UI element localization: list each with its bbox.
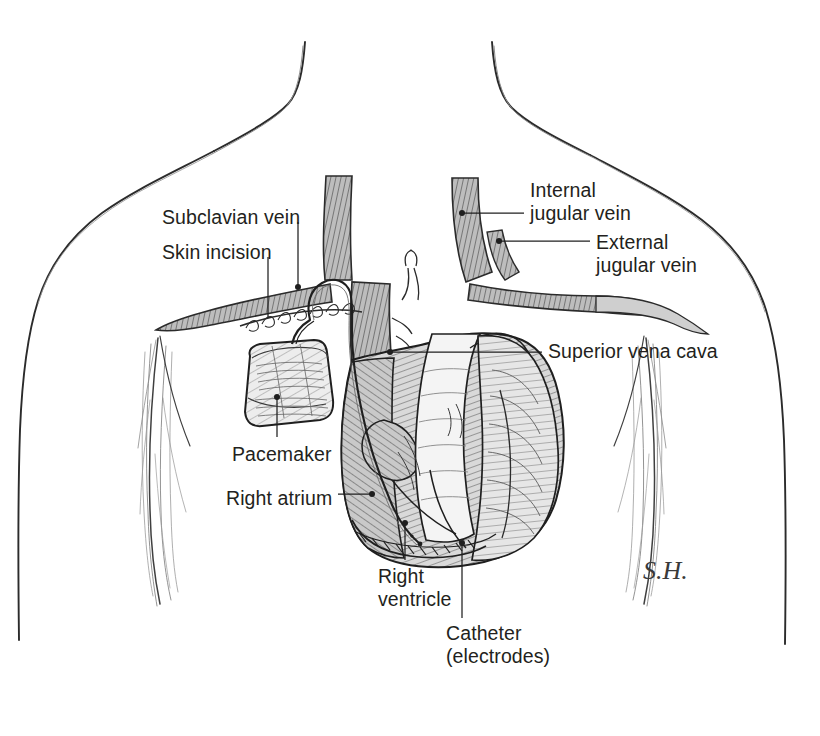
dot-right-ventricle bbox=[402, 520, 408, 526]
vessel-jugular-left-internal bbox=[323, 176, 352, 280]
dot-catheter bbox=[459, 540, 465, 546]
dot-right-atrium bbox=[369, 491, 375, 497]
label-superior-vena-cava: Superior vena cava bbox=[548, 340, 718, 363]
label-pacemaker: Pacemaker bbox=[232, 443, 332, 466]
label-subclavian-vein: Subclavian vein bbox=[162, 206, 300, 229]
label-right-ventricle: Right ventricle bbox=[378, 565, 452, 611]
artist-signature: S.H. bbox=[643, 556, 688, 586]
dot-internal-jugular bbox=[459, 210, 465, 216]
dot-subclavian-vein bbox=[295, 284, 301, 290]
pacemaker-illustration bbox=[0, 0, 820, 736]
pulse-generator-body bbox=[245, 340, 333, 426]
label-external-jugular-vein: External jugular vein bbox=[596, 231, 697, 277]
heart bbox=[341, 333, 563, 567]
label-catheter-electrodes: Catheter (electrodes) bbox=[446, 622, 550, 668]
label-right-atrium: Right atrium bbox=[226, 487, 332, 510]
dot-pacemaker bbox=[274, 394, 280, 400]
label-skin-incision: Skin incision bbox=[162, 241, 272, 264]
label-internal-jugular-vein: Internal jugular vein bbox=[530, 179, 631, 225]
dot-superior-vena-cava bbox=[387, 349, 393, 355]
dot-external-jugular bbox=[496, 238, 502, 244]
